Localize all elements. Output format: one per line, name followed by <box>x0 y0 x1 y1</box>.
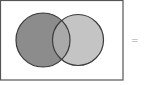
venn-diagram <box>0 0 147 85</box>
equals-sign: = <box>131 36 139 45</box>
